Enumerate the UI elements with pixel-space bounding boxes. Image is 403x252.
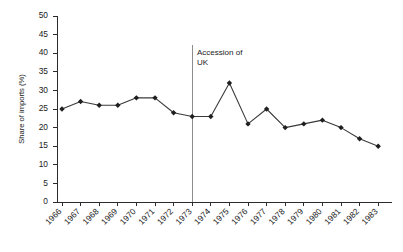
y-axis-title: Share of imports (%) — [17, 74, 26, 144]
data-point-marker — [301, 121, 306, 126]
xtick-label: 1967 — [62, 206, 82, 226]
import-share-line — [62, 83, 378, 146]
ytick-label: 25 — [39, 103, 49, 113]
data-point-marker — [357, 136, 362, 141]
xtick-label: 1979 — [285, 206, 305, 226]
data-point-marker — [376, 144, 381, 149]
xtick-label: 1971 — [136, 206, 156, 226]
x-axis-ticks — [62, 202, 378, 206]
ytick-label: 20 — [39, 122, 49, 132]
xtick-label: 1966 — [43, 206, 63, 226]
data-point-marker — [338, 125, 343, 130]
xtick-label: 1972 — [155, 206, 175, 226]
data-point-marker — [115, 103, 120, 108]
data-point-marker — [78, 99, 83, 104]
xtick-label: 1981 — [322, 206, 342, 226]
data-point-marker — [208, 114, 213, 119]
xtick-label: 1968 — [80, 206, 100, 226]
data-point-marker — [97, 103, 102, 108]
xtick-label: 1970 — [118, 206, 138, 226]
data-point-markers — [59, 80, 381, 149]
xtick-label: 1975 — [211, 206, 231, 226]
xtick-label: 1977 — [248, 206, 268, 226]
accession-annotation-line2: UK — [197, 58, 209, 67]
ytick-label: 50 — [39, 10, 49, 20]
data-point-marker — [320, 117, 325, 122]
xtick-label: 1976 — [229, 206, 249, 226]
ytick-label: 15 — [39, 140, 49, 150]
data-point-marker — [190, 114, 195, 119]
ytick-label: 30 — [39, 85, 49, 95]
line-chart: 50 45 40 35 30 25 20 15 10 5 0 — [0, 0, 403, 252]
xtick-label: 1978 — [266, 206, 286, 226]
y-axis-ticks — [53, 16, 57, 202]
y-axis-tick-labels: 50 45 40 35 30 25 20 15 10 5 0 — [39, 10, 49, 206]
ytick-label: 45 — [39, 29, 49, 39]
ytick-label: 40 — [39, 47, 49, 57]
data-point-marker — [59, 106, 64, 111]
xtick-label: 1973 — [173, 206, 193, 226]
ytick-label: 35 — [39, 66, 49, 76]
ytick-label: 10 — [39, 159, 49, 169]
x-axis-tick-labels: 1966 1967 1968 1969 1970 1971 1972 1973 … — [43, 206, 380, 226]
xtick-label: 1982 — [341, 206, 361, 226]
chart-container: 50 45 40 35 30 25 20 15 10 5 0 — [0, 0, 403, 252]
xtick-label: 1980 — [304, 206, 324, 226]
accession-annotation-line1: Accession of — [197, 48, 243, 57]
data-point-marker — [227, 80, 232, 85]
ytick-label: 0 — [43, 196, 48, 206]
data-point-marker — [134, 95, 139, 100]
ytick-label: 5 — [43, 178, 48, 188]
xtick-label: 1974 — [192, 206, 212, 226]
xtick-label: 1983 — [359, 206, 379, 226]
xtick-label: 1969 — [99, 206, 119, 226]
